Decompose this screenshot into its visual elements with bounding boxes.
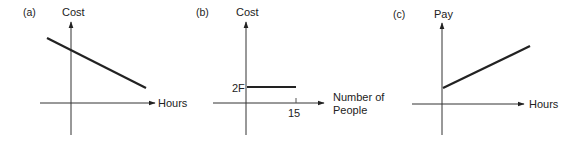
- panel-b-x-label-line2: People: [333, 104, 367, 116]
- panel-a-tag: (a): [23, 6, 36, 18]
- panel-b-y-label: Cost: [236, 6, 259, 18]
- panel-c-pay-line: [443, 46, 530, 88]
- panel-b-tag: (b): [196, 6, 209, 18]
- panel-a-cost-line: [47, 38, 146, 88]
- panel-c-x-label: Hours: [529, 98, 558, 110]
- panel-b-y-tick-label: 2F: [232, 82, 245, 94]
- panel-b-x-label-line1: Number of: [333, 91, 384, 103]
- diagram-canvas: [0, 0, 578, 141]
- panel-b-x-tick-label: 15: [288, 107, 300, 119]
- panel-c-graph: [412, 23, 530, 135]
- panel-a-y-label: Cost: [62, 6, 85, 18]
- panel-c-tag: (c): [393, 8, 405, 20]
- panel-a-graph: [40, 22, 155, 135]
- panel-c-y-label: Pay: [434, 8, 453, 20]
- panel-a-x-label: Hours: [158, 97, 187, 109]
- panel-b-graph: [213, 22, 324, 135]
